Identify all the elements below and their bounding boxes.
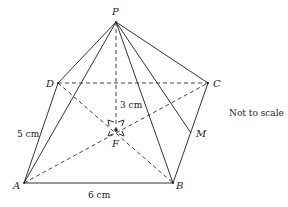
label-m: M — [195, 128, 207, 139]
diagonal-ac — [24, 83, 208, 183]
not-to-scale-note: Not to scale — [229, 108, 284, 118]
point-d — [57, 82, 59, 84]
pyramid-diagram: P D C A B F M 3 cm 5 cm 6 cm Not to scal… — [0, 0, 288, 207]
label-c: C — [213, 78, 221, 89]
point-f — [114, 128, 118, 132]
point-a — [23, 182, 25, 184]
edge-pd — [58, 22, 116, 83]
label-a: A — [12, 180, 20, 191]
label-b: B — [175, 180, 183, 191]
label-p: P — [111, 6, 119, 17]
edge-pc — [116, 22, 208, 83]
edge-pa — [24, 22, 116, 183]
ad-measure: 5 cm — [17, 129, 40, 139]
point-b — [172, 182, 174, 184]
height-measure: 3 cm — [120, 100, 143, 110]
label-f: F — [111, 138, 120, 149]
label-d: D — [45, 78, 54, 89]
point-c — [207, 82, 209, 84]
point-p — [115, 21, 117, 23]
ab-measure: 6 cm — [88, 190, 111, 200]
line-pm — [116, 22, 191, 133]
